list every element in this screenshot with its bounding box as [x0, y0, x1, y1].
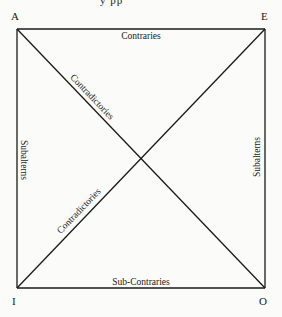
- corner-label-e: E: [261, 10, 268, 22]
- contradictories-upper-label: Contradictories: [68, 72, 116, 121]
- subalterns-left-label: Subalterns: [19, 140, 29, 180]
- square-lines: [17, 29, 265, 288]
- contradictories-lower-label: Contradictories: [55, 186, 103, 235]
- corner-label-i: I: [12, 295, 16, 307]
- contraries-label: Contraries: [121, 31, 161, 41]
- corner-label-a: A: [11, 10, 19, 22]
- subalterns-right-label: Subalterns: [252, 137, 262, 177]
- square-of-opposition: A E I O Contraries Sub-Contraries Subalt…: [0, 0, 282, 317]
- sub-contraries-label: Sub-Contraries: [112, 277, 170, 287]
- corner-label-o: O: [259, 295, 267, 307]
